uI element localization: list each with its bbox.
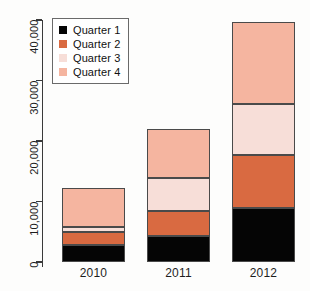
y-axis-tick-label-text: 10,000 (29, 201, 40, 235)
y-axis-tick-label: 30,000 (0, 75, 34, 87)
legend-item-quarter-1: Quarter 1 (59, 23, 120, 37)
bar-segment-2012-quarter-4 (232, 22, 295, 105)
x-axis-label-2012: 2012 (232, 266, 295, 280)
y-axis-tick-label-text: 20,000 (29, 141, 40, 175)
bar-segment-2011-quarter-1 (147, 236, 210, 262)
bar-segment-2011-quarter-4 (147, 129, 210, 178)
bar-segment-2011-quarter-3 (147, 178, 210, 211)
legend-item-quarter-3: Quarter 3 (59, 51, 120, 65)
legend-item-quarter-4: Quarter 4 (59, 65, 120, 79)
bar-2011 (147, 133, 210, 262)
legend-swatch-icon (59, 40, 67, 48)
bar-2010 (62, 188, 125, 262)
y-axis-tick-label: 10,000 (0, 196, 34, 208)
legend-swatch-icon (59, 54, 67, 62)
bar-segment-2010-quarter-3 (62, 227, 125, 232)
x-axis-label-2010: 2010 (62, 266, 125, 280)
bar-segment-2010-quarter-1 (62, 245, 125, 262)
x-axis-origin-tick (42, 262, 43, 267)
x-axis-label-2011: 2011 (147, 266, 210, 280)
bar-2012 (232, 15, 295, 262)
stacked-bar-chart: 010,00020,00030,00040,000 201020112012 Q… (0, 0, 310, 291)
y-axis-tick-label-text: 0 (29, 262, 40, 268)
legend-item-quarter-2: Quarter 2 (59, 37, 120, 51)
y-axis-tick-label: 20,000 (0, 135, 34, 147)
y-axis-tick-label-text: 40,000 (29, 20, 40, 54)
legend-item-label: Quarter 1 (73, 24, 120, 36)
chart-legend: Quarter 1Quarter 2Quarter 3Quarter 4 (52, 18, 129, 84)
bar-segment-2010-quarter-4 (62, 188, 125, 227)
y-axis-tick-label-text: 30,000 (29, 80, 40, 114)
bar-segment-2011-quarter-2 (147, 211, 210, 236)
bar-segment-2012-quarter-2 (232, 155, 295, 208)
legend-item-label: Quarter 4 (73, 66, 120, 78)
bar-segment-2012-quarter-1 (232, 208, 295, 262)
bar-segment-2012-quarter-3 (232, 104, 295, 155)
legend-item-label: Quarter 3 (73, 52, 120, 64)
legend-swatch-icon (59, 68, 67, 76)
legend-swatch-icon (59, 26, 67, 34)
y-axis-tick-label: 40,000 (0, 14, 34, 26)
legend-item-label: Quarter 2 (73, 38, 120, 50)
bar-segment-2010-quarter-2 (62, 232, 125, 245)
y-axis-tick-label: 0 (0, 256, 34, 268)
